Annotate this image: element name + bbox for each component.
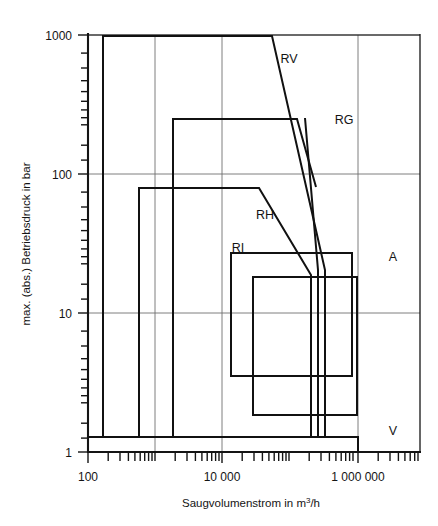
log-log-plot: 1000 100 10 1 100 10 000 1 000 000 max. … <box>0 0 438 526</box>
region-curve-rh <box>139 188 311 437</box>
region-label-rv: RV <box>280 52 298 66</box>
region-curve-v <box>88 437 358 451</box>
x-axis-title-main: Saugvolumenstrom in m <box>182 497 306 509</box>
y-tick-label-10: 10 <box>59 307 73 321</box>
x-tick-label-100: 100 <box>78 470 98 484</box>
region-label-v: V <box>389 424 398 438</box>
region-curve-ri-inner <box>253 277 357 415</box>
y-axis-ticks <box>78 35 88 452</box>
region-label-ri: RI <box>232 241 245 255</box>
x-axis-title-tail: /h <box>310 497 320 509</box>
chart-figure: 1000 100 10 1 100 10 000 1 000 000 max. … <box>0 0 438 526</box>
y-axis-title: max. (abs.) Betriebsdruck in bar <box>20 162 32 325</box>
region-curves <box>88 36 358 451</box>
region-curve-ri <box>231 253 352 376</box>
x-tick-label-1000000: 1 000 000 <box>331 470 385 484</box>
y-tick-label-1000: 1000 <box>45 29 72 43</box>
x-axis-title: Saugvolumenstrom in m3/h <box>182 496 320 509</box>
y-tick-label-1: 1 <box>65 446 72 460</box>
region-label-a: A <box>389 250 398 264</box>
x-tick-label-10000: 10 000 <box>204 470 241 484</box>
region-label-rg: RG <box>335 113 354 127</box>
y-tick-label-100: 100 <box>52 168 72 182</box>
x-axis-ticks <box>88 452 418 463</box>
region-label-rh: RH <box>256 208 274 222</box>
